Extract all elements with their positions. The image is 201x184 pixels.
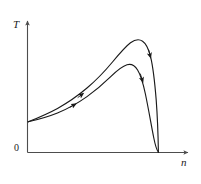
y-axis-label: T [13, 19, 19, 30]
x-axis-label: n [181, 157, 187, 168]
axis-group [28, 21, 189, 153]
origin-tick-label: 0 [14, 143, 19, 153]
curve-lower-branch [28, 64, 158, 152]
figure-container: T n 0 [0, 0, 201, 184]
curve-group [28, 40, 158, 152]
direction-marker-lower-rising [70, 105, 75, 108]
plot-canvas [0, 0, 201, 184]
curve-upper-branch [28, 40, 158, 152]
